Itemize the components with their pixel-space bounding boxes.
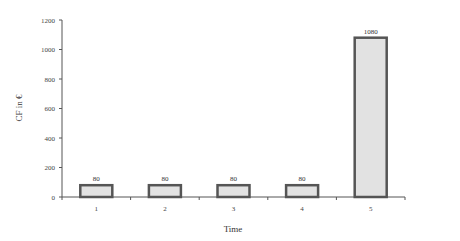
y-tick-label: 800: [45, 76, 56, 84]
y-tick-label: 1200: [41, 17, 56, 25]
x-tick-label: 4: [300, 205, 304, 213]
y-tick-label: 0: [52, 194, 56, 202]
x-axis-title: Time: [224, 224, 243, 234]
bar: [355, 38, 387, 197]
bars: 808080801080: [80, 28, 386, 197]
y-tick-label: 200: [45, 164, 56, 172]
bar-value-label: 1080: [364, 28, 379, 36]
y-tick-label: 400: [45, 135, 56, 143]
bar: [286, 185, 318, 197]
bar: [149, 185, 181, 197]
bar-chart: 020040060080010001200 12345 808080801080…: [0, 0, 460, 241]
x-tick-label: 2: [163, 205, 167, 213]
x-tick-label: 3: [232, 205, 236, 213]
x-axis: 12345: [62, 197, 405, 213]
y-tick-label: 600: [45, 105, 56, 113]
y-axis-title: CF in €: [14, 94, 24, 122]
bar-value-label: 80: [299, 175, 307, 183]
y-tick-label: 1000: [41, 46, 56, 54]
y-axis: 020040060080010001200: [41, 17, 62, 202]
bar: [218, 185, 250, 197]
x-tick-label: 1: [95, 205, 99, 213]
bar-value-label: 80: [230, 175, 238, 183]
x-tick-label: 5: [369, 205, 373, 213]
bar: [80, 185, 112, 197]
bar-value-label: 80: [161, 175, 169, 183]
bar-value-label: 80: [93, 175, 101, 183]
